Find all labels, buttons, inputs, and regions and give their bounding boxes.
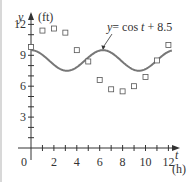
x-tick-label: 8 [120,155,126,169]
data-point-square-icon [63,30,68,35]
data-point-square-icon [143,74,148,79]
data-point-square-icon [74,48,79,53]
data-point-square-icon [51,26,56,31]
x-tick-label: 2 [51,155,57,169]
data-point-square-icon [97,78,102,83]
data-point-square-icon [166,43,171,48]
axes: 2468101236912 [14,12,180,169]
annotation-arrow-line [104,34,112,46]
data-point-square-icon [40,28,45,33]
x-axis-label: t [175,148,179,162]
data-point-square-icon [132,84,137,89]
origin-label: 0 [21,155,27,169]
data-point-square-icon [29,45,34,50]
y-axis-unit: (ft) [38,10,53,24]
equation-label: y= cos t + 8.5 [106,20,172,34]
x-tick-label: 10 [140,155,152,169]
x-tick-label: 6 [97,155,103,169]
x-axis-unit: (h) [172,162,186,176]
y-tick-label: 3 [20,110,26,124]
x-tick-label: 4 [74,155,80,169]
curve-path [31,50,172,71]
data-point-square-icon [154,58,159,63]
data-point-square-icon [109,87,114,92]
y-axis-label: y [17,10,24,24]
chart: 2468101236912 y (ft) t (h) 0 y= cos t + … [0,0,191,182]
data-point-square-icon [86,59,91,64]
y-tick-label: 6 [20,79,26,93]
cosine-curve [31,50,172,71]
chart-labels: y (ft) t (h) 0 y= cos t + 8.5 [17,10,186,176]
y-tick-label: 9 [20,48,26,62]
data-point-square-icon [120,89,125,94]
y-axis-arrow-icon [28,12,34,20]
